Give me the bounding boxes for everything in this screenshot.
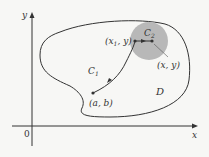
point-x1-y-label: (x1, y) <box>105 36 132 47</box>
point-a-b-label: (a, b) <box>89 98 113 108</box>
point-x-y <box>150 39 153 42</box>
y-axis-label: y <box>21 10 28 20</box>
curve-c1-label: C1 <box>88 66 99 77</box>
region-d-label: D <box>155 86 164 97</box>
origin-label: 0 <box>24 129 30 139</box>
curve-c1 <box>93 41 135 93</box>
y-axis-arrow-icon <box>30 12 35 18</box>
x-axis-label: x <box>192 130 197 140</box>
point-x-y-label: (x, y) <box>157 60 180 70</box>
x-axis-arrow-icon <box>192 124 198 129</box>
point-x1-y <box>133 39 136 42</box>
axes <box>12 12 198 146</box>
line-integral-diagram: y x 0 D C1 C2 (a, b) (x1, y) (x, y) <box>0 0 209 157</box>
point-a-b <box>91 91 94 94</box>
